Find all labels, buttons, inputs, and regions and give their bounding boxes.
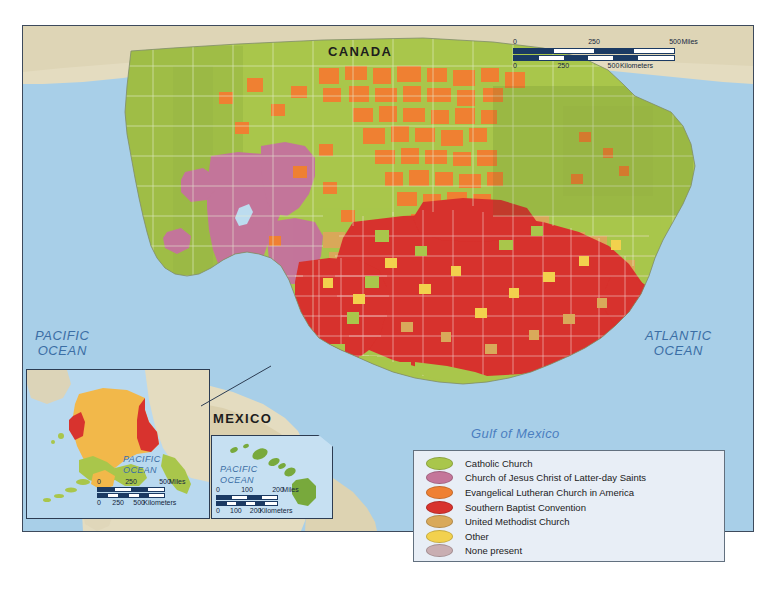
scale-main-km-ticks: 0 250 500 Kilometers <box>513 62 675 72</box>
scale-main-km-tick-0: 0 <box>513 62 517 69</box>
scale-main-miles-track <box>513 48 675 54</box>
legend-swatch-icon <box>426 486 453 499</box>
scale-seg <box>247 496 262 499</box>
scale-seg <box>98 494 108 497</box>
legend-swatch-icon <box>426 544 453 557</box>
legend-item-latter-day-saints[interactable]: Church of Jesus Christ of Latter-day Sai… <box>414 471 724 486</box>
legend-item-catholic-church[interactable]: Catholic Church <box>414 456 724 471</box>
map-screenshot: CANADA MEXICO PACIFIC OCEAN ATLANTIC OCE… <box>0 0 777 590</box>
legend-item-label: Southern Baptist Convention <box>465 502 586 513</box>
hawaii-inset: PACIFIC OCEAN 0 100 200 Miles <box>211 435 333 519</box>
scale-hawaii-km-unit: Kilometers <box>259 507 292 514</box>
scale-hawaii-miles-ticks: 0 100 200 Miles <box>216 486 278 495</box>
legend-swatch-icon <box>426 530 453 543</box>
legend-item-label: Church of Jesus Christ of Latter-day Sai… <box>465 472 646 483</box>
legend-item-southern-baptist[interactable]: Southern Baptist Convention <box>414 500 724 515</box>
scale-seg <box>514 49 554 53</box>
scale-main-miles-tick-1: 250 <box>588 38 600 45</box>
scale-alaska-km-tick-1: 250 <box>112 499 124 506</box>
scale-seg <box>594 49 634 53</box>
scale-bar-main: 0 250 500 Miles 0 250 500 Kilometers <box>513 38 675 72</box>
scale-seg <box>613 56 638 60</box>
scale-hawaii-miles-unit: Miles <box>282 486 298 493</box>
legend-item-label: None present <box>465 545 522 556</box>
scale-seg <box>255 502 265 505</box>
scale-main-km-unit: Kilometers <box>620 62 653 69</box>
scale-hawaii-miles-track <box>216 495 278 500</box>
scale-seg <box>236 502 246 505</box>
scale-main-miles-tick-2: 500 <box>669 38 681 45</box>
scale-main-km-tick-2: 500 <box>608 62 620 69</box>
scale-alaska-miles-ticks: 0 250 500 Miles <box>97 478 165 487</box>
scale-seg <box>514 56 539 60</box>
scale-seg <box>118 494 128 497</box>
scale-alaska-km-unit: Kilometers <box>143 499 176 506</box>
scale-seg <box>131 488 148 491</box>
scale-seg <box>217 502 227 505</box>
legend-item-label: Catholic Church <box>465 458 533 469</box>
scale-main-miles-ticks: 0 250 500 Miles <box>513 38 675 48</box>
legend-swatch-icon <box>426 457 453 470</box>
scale-seg <box>139 494 149 497</box>
legend-item-label: Evangelical Lutheran Church in America <box>465 487 634 498</box>
scale-hawaii-km-ticks: 0 100 200 Kilometers <box>216 507 278 516</box>
scale-alaska-miles-unit: Miles <box>169 478 185 485</box>
scale-hawaii-miles-tick-1: 100 <box>241 486 253 493</box>
scale-main-km-track <box>513 55 675 61</box>
scale-seg <box>217 496 232 499</box>
scale-main-miles-unit: Miles <box>681 38 697 45</box>
scale-alaska-km-tick-0: 0 <box>97 499 101 506</box>
legend-item-united-methodist[interactable]: United Methodist Church <box>414 514 724 529</box>
legend-swatch-icon <box>426 515 453 528</box>
legend-panel: Catholic Church Church of Jesus Christ o… <box>413 450 725 562</box>
scale-alaska-miles-tick-0: 0 <box>97 478 101 485</box>
legend-item-evangelical-lutheran[interactable]: Evangelical Lutheran Church in America <box>414 485 724 500</box>
alaska-inset: PACIFIC OCEAN 0 250 500 Miles <box>26 369 210 519</box>
scale-bar-hawaii: 0 100 200 Miles 0 100 200 <box>216 486 278 516</box>
scale-hawaii-miles-tick-0: 0 <box>216 486 220 493</box>
scale-bar-alaska: 0 250 500 Miles 0 250 500 <box>97 478 165 508</box>
legend-swatch-icon <box>426 471 453 484</box>
scale-alaska-miles-track <box>97 487 165 492</box>
legend-swatch-icon <box>426 501 453 514</box>
legend-item-label: Other <box>465 531 489 542</box>
scale-seg <box>98 488 115 491</box>
scale-hawaii-km-track <box>216 501 278 506</box>
scale-alaska-km-ticks: 0 250 500 Kilometers <box>97 499 165 508</box>
legend-item-label: United Methodist Church <box>465 516 570 527</box>
scale-seg <box>564 56 589 60</box>
scale-main-miles-tick-0: 0 <box>513 38 517 45</box>
legend-item-other[interactable]: Other <box>414 529 724 544</box>
scale-hawaii-km-tick-1: 100 <box>230 507 242 514</box>
scale-alaska-miles-tick-1: 250 <box>125 478 137 485</box>
scale-hawaii-km-tick-0: 0 <box>216 507 220 514</box>
legend-item-none-present[interactable]: None present <box>414 544 724 559</box>
scale-alaska-km-track <box>97 493 165 498</box>
scale-main-km-tick-1: 250 <box>557 62 569 69</box>
